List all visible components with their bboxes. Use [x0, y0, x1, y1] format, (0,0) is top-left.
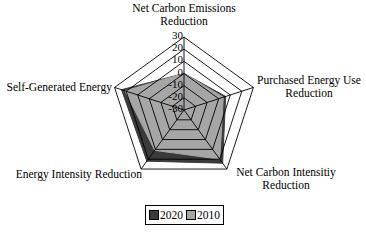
radial-tick-label: -30	[161, 103, 183, 114]
axis-label-net-carbon-emissions: Net Carbon Emissions Reduction	[124, 2, 244, 28]
axis-label-purchased-energy: Purchased Energy Use Reduction	[252, 74, 366, 100]
radial-tick-label: 20	[161, 42, 183, 53]
radial-tick-label: 10	[161, 54, 183, 65]
axis-label-energy-intensity: Energy Intensity Reduction	[10, 168, 142, 181]
radial-tick-label: -10	[161, 79, 183, 90]
legend-item-2010: 2010	[186, 209, 220, 221]
legend-swatch-2010	[186, 210, 196, 220]
legend-item-2020: 2020	[149, 209, 183, 221]
legend: 2020 2010	[145, 205, 224, 225]
legend-swatch-2020	[149, 210, 159, 220]
axis-label-self-generated-energy: Self-Generated Energy	[2, 81, 112, 94]
radial-tick-label: 0	[161, 67, 183, 78]
radial-tick-label: 30	[161, 30, 183, 41]
radial-tick-label: -20	[161, 91, 183, 102]
axis-label-net-carbon-intensity: Net Carbon Intensitiy Reduction	[228, 166, 344, 192]
